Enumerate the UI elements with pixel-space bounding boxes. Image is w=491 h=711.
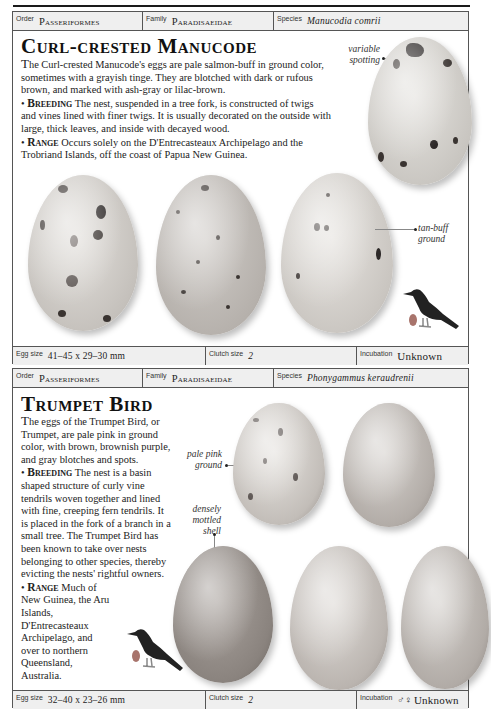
egg-spot xyxy=(400,161,407,167)
callout-densely-mottled-shell: densely mottled shell xyxy=(181,504,221,537)
order-label: Order xyxy=(16,15,34,22)
egg-spot xyxy=(201,185,209,191)
clutch-size-cell: Clutch size 2 xyxy=(206,347,357,365)
species-cell: Species Phonygammus keraudrenii xyxy=(274,369,468,387)
callout-pale-pink-ground: pale pink ground xyxy=(178,449,222,471)
egg-size-value: 41–45 x 29–30 mm xyxy=(48,351,125,361)
clutch-size-label: Clutch size xyxy=(209,694,243,701)
breeding-text: The nest is a basin shaped structure of … xyxy=(21,467,171,579)
taxonomy-header: Order Passeriformes Family Paradisaeidae… xyxy=(13,12,468,31)
egg-spot xyxy=(314,223,320,231)
order-value: Passeriformes xyxy=(39,373,100,384)
order-cell: Order Passeriformes xyxy=(13,12,143,30)
egg-facts-footer: Egg size 32–40 x 23–26 mm Clutch size 2 … xyxy=(13,690,468,709)
egg-image-1 xyxy=(233,403,325,525)
family-cell: Family Paradisaeidae xyxy=(143,369,274,387)
egg-size-label: Egg size xyxy=(16,694,43,701)
species-value: Phonygammus keraudrenii xyxy=(307,373,414,383)
callout-tan-buff-ground: tan-buff ground xyxy=(418,223,463,245)
callout-variable-spotting: variable spotting xyxy=(332,44,380,66)
callout-dot xyxy=(414,228,417,231)
family-label: Family xyxy=(146,15,167,22)
family-value: Paradisaeidae xyxy=(172,16,233,27)
egg-image-3 xyxy=(281,173,393,333)
egg-image-2 xyxy=(343,403,435,527)
clutch-size-value: 2 xyxy=(248,695,253,705)
bird-illustration xyxy=(401,284,463,334)
egg-spot xyxy=(326,193,330,197)
egg-image-1 xyxy=(28,175,138,331)
egg-image-4 xyxy=(290,546,388,690)
incubation-cell: Incubation ♂♀ Unknown xyxy=(357,691,468,709)
range-label: Range xyxy=(27,581,58,593)
egg-spot xyxy=(263,458,267,464)
egg-spot xyxy=(70,235,78,247)
family-cell: Family Paradisaeidae xyxy=(143,12,274,30)
species-label: Species xyxy=(277,372,302,379)
egg-spot xyxy=(236,275,240,279)
clutch-size-label: Clutch size xyxy=(209,350,243,357)
clutch-size-value: 2 xyxy=(248,351,253,361)
species-label: Species xyxy=(277,15,302,22)
egg-spot xyxy=(443,59,452,67)
egg-spot xyxy=(103,315,111,322)
clutch-size-cell: Clutch size 2 xyxy=(206,691,357,709)
species-description: The Curl-crested Manucode's eggs are pal… xyxy=(21,58,331,162)
egg-spot xyxy=(278,428,283,436)
egg-spot xyxy=(181,290,186,294)
species-value: Manucodia comrii xyxy=(307,16,381,26)
callout-leader xyxy=(375,229,415,230)
description-text: he Curl-crested Manucode's eggs are pale… xyxy=(21,59,324,95)
egg-spot xyxy=(376,248,381,260)
egg-spot xyxy=(430,140,438,149)
range-label: Range xyxy=(27,136,58,148)
breeding-label: Breeding xyxy=(27,97,72,109)
egg-size-cell: Egg size 41–45 x 29–30 mm xyxy=(13,347,206,365)
egg-spot xyxy=(324,225,329,231)
egg-spot xyxy=(226,305,230,309)
egg-spot xyxy=(58,185,68,193)
species-card-trumpet-bird: Order Passeriformes Family Paradisaeidae… xyxy=(12,368,469,708)
species-cell: Species Manucodia comrii xyxy=(274,12,468,30)
bird-illustration xyxy=(127,626,189,676)
page-top-rule xyxy=(13,5,470,7)
order-value: Passeriformes xyxy=(39,16,100,27)
egg-facts-footer: Egg size 41–45 x 29–30 mm Clutch size 2 … xyxy=(13,346,468,365)
egg-spot xyxy=(293,473,298,481)
incubation-label: Incubation xyxy=(360,694,392,701)
description-text: he eggs of the Trumpet Bird, or Trumpet,… xyxy=(21,416,170,465)
incubation-cell: Incubation Unknown xyxy=(357,347,468,365)
egg-spot xyxy=(216,235,220,240)
range-text: Much of New Guinea, the Aru Islands, D'E… xyxy=(21,582,109,681)
egg-spot xyxy=(253,418,259,422)
family-label: Family xyxy=(146,372,167,379)
incubation-label: Incubation xyxy=(360,350,392,357)
egg-image-5 xyxy=(401,546,489,689)
egg-size-cell: Egg size 32–40 x 23–26 mm xyxy=(13,691,206,709)
breeding-label: Breeding xyxy=(27,466,72,478)
range-text: Occurs solely on the D'Entrecasteaux Arc… xyxy=(21,137,303,161)
taxonomy-header: Order Passeriformes Family Paradisaeidae… xyxy=(13,369,468,388)
egg-spot xyxy=(58,310,66,317)
egg-image-2 xyxy=(156,175,266,335)
order-label: Order xyxy=(16,372,34,379)
egg-size-label: Egg size xyxy=(16,350,43,357)
egg-spot xyxy=(378,152,384,162)
egg-spot xyxy=(453,137,458,144)
incubation-value: Unknown xyxy=(414,694,459,706)
drop-letter: T xyxy=(21,413,29,428)
incubation-value: Unknown xyxy=(397,350,442,362)
egg-spot xyxy=(93,230,103,240)
male-female-icon: ♂♀ xyxy=(397,695,412,705)
egg-image-large xyxy=(368,37,472,185)
egg-spot xyxy=(40,220,45,230)
egg-spot xyxy=(196,260,200,264)
egg-spot xyxy=(176,210,180,214)
drop-letter: T xyxy=(21,56,29,71)
egg-spot xyxy=(406,43,424,57)
egg-size-value: 32–40 x 23–26 mm xyxy=(48,695,125,705)
family-value: Paradisaeidae xyxy=(172,373,233,384)
egg-spot xyxy=(393,59,400,69)
egg-spot xyxy=(66,275,78,287)
species-title: Trumpet Bird xyxy=(21,392,153,417)
